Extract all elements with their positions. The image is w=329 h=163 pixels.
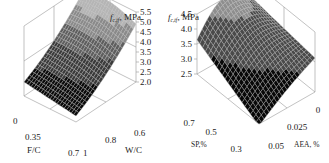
z-tick-label: 3.5	[181, 39, 193, 49]
x-tick-label: 0.7	[183, 118, 195, 128]
y-tick-label: 0.6	[134, 128, 146, 138]
z-tick-label: 3.0	[140, 57, 152, 67]
z-tick-label: 4.0	[181, 24, 193, 34]
x-tick-label: 0.3	[230, 144, 242, 154]
surface-plot-left: 2.02.53.03.54.04.55.05.500.350.70.60.81	[13, 0, 152, 158]
y-tick-label: 0	[316, 105, 321, 115]
z-tick-label: 2.0	[140, 77, 152, 87]
z-axis-label-right: fc,tf, MPa	[168, 12, 199, 23]
z-tick-label: 3.5	[140, 47, 152, 57]
x-tick-label: 0	[13, 116, 18, 126]
z-tick-label: 2.5	[181, 69, 193, 79]
x-tick-label: 0.5	[205, 127, 217, 137]
z-tick-label: 4.5	[140, 27, 152, 37]
y-tick-label: 1	[83, 148, 88, 158]
z-tick-label: 5.0	[140, 17, 152, 27]
y-tick-label: 0.8	[105, 135, 117, 145]
y-tick-label: 0.025	[287, 122, 308, 132]
surface-plot-right: 2.53.03.54.04.50.70.50.300.0250.05	[181, 0, 321, 154]
x-axis-label-right: SP,%	[191, 140, 207, 149]
y-axis-label-right: AEA, %	[294, 140, 319, 149]
y-tick-label: 0.05	[268, 141, 284, 151]
x-tick-label: 0.7	[68, 148, 80, 158]
z-tick-label: 3.0	[181, 54, 193, 64]
y-axis-label-left: W/C	[125, 145, 142, 155]
x-axis-label-left: F/C	[27, 145, 41, 155]
x-tick-label: 0.35	[25, 132, 41, 142]
figure: 2.02.53.03.54.04.55.05.500.350.70.60.81 …	[0, 0, 329, 163]
z-tick-label: 2.5	[140, 67, 152, 77]
z-tick-label: 4.0	[140, 37, 152, 47]
z-tick-label: 5.5	[140, 7, 152, 17]
